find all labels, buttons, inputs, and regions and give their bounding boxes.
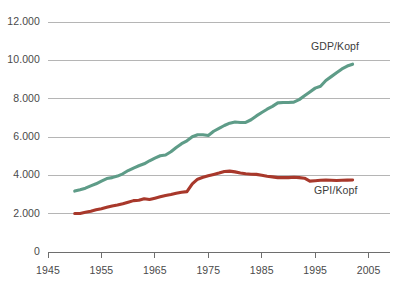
y-axis-tick-label: 4.000 (0, 168, 40, 180)
series-label-gpi: GPI/Kopf (314, 184, 357, 196)
series-label-gdp: GDP/Kopf (311, 40, 359, 52)
x-axis-tick-label: 1985 (232, 264, 292, 276)
x-axis-tick-label: 1975 (178, 264, 238, 276)
y-axis-tick-label: 0 (0, 245, 40, 257)
data-series-group (75, 64, 353, 213)
x-axis-tick-label: 1945 (18, 264, 78, 276)
x-axis-tick-label: 2005 (339, 264, 399, 276)
x-axis-tick-label: 1965 (125, 264, 185, 276)
chart-container: 02.0004.0006.0008.00010.00012.000 194519… (0, 0, 402, 289)
series-line-gdp-kopf (75, 64, 353, 191)
y-axis-tick-label: 8.000 (0, 92, 40, 104)
y-axis-tick-label: 10.000 (0, 53, 40, 65)
x-axis-tick-label: 1995 (285, 264, 345, 276)
x-axis-tick-label: 1955 (71, 264, 131, 276)
y-axis-tick-label: 2.000 (0, 207, 40, 219)
y-axis-tick-label: 12.000 (0, 15, 40, 27)
y-axis-tick-label: 6.000 (0, 130, 40, 142)
x-axis (48, 252, 390, 258)
